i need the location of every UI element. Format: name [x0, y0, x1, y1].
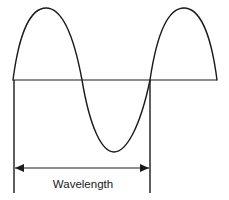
- wavelength-diagram: Wavelength: [0, 0, 229, 200]
- arrow-left-icon: [15, 164, 24, 172]
- arrow-right-icon: [140, 164, 149, 172]
- wavelength-label: Wavelength: [53, 178, 113, 190]
- wave-figure: Wavelength: [0, 0, 229, 200]
